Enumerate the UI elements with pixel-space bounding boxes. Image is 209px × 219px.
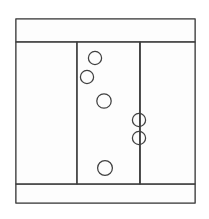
bottom-band bbox=[16, 184, 195, 203]
top-band bbox=[16, 19, 195, 42]
schematic-diagram bbox=[0, 0, 209, 219]
figure-root bbox=[0, 0, 209, 219]
center-column-region bbox=[77, 42, 140, 184]
right-column-region bbox=[140, 42, 195, 184]
left-column-region bbox=[16, 42, 77, 184]
